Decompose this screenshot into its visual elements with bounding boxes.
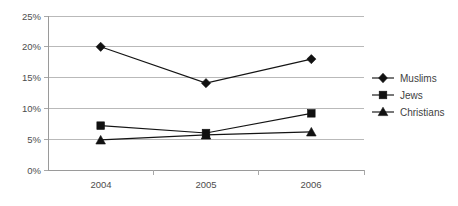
data-point-diamond <box>96 42 105 51</box>
legend-item-christians[interactable]: Christians <box>372 107 444 118</box>
triangle-icon <box>378 107 388 115</box>
y-axis-label: 15% <box>22 72 42 83</box>
y-axis-label: 10% <box>22 103 42 114</box>
x-axis-labels: 2004 2005 2006 <box>90 179 321 190</box>
legend-label: Muslims <box>400 73 437 84</box>
y-axis-label: 5% <box>27 134 41 145</box>
gridlines <box>48 16 364 170</box>
legend-item-jews[interactable]: Jews <box>372 90 423 101</box>
data-point-square <box>97 122 105 130</box>
data-point-square <box>308 110 316 118</box>
square-icon <box>379 91 387 99</box>
diamond-icon <box>379 73 388 83</box>
legend-label: Jews <box>400 90 423 101</box>
axes <box>44 16 364 175</box>
legend-label: Christians <box>400 107 444 118</box>
x-axis-label: 2004 <box>90 179 111 190</box>
series-group <box>96 42 316 144</box>
legend-item-muslims[interactable]: Muslims <box>372 73 437 84</box>
line-chart: 25% 20% 15% 10% 5% 0% 2004 2005 2006 Mus… <box>0 0 458 206</box>
series-muslims <box>96 42 316 88</box>
chart-svg: 25% 20% 15% 10% 5% 0% 2004 2005 2006 Mus… <box>0 0 458 206</box>
data-point-diamond <box>201 79 210 88</box>
x-axis-label: 2006 <box>300 179 321 190</box>
y-axis-labels: 25% 20% 15% 10% 5% 0% <box>22 11 42 176</box>
data-point-diamond <box>307 55 316 64</box>
y-axis-label: 0% <box>27 165 41 176</box>
y-axis-label: 25% <box>22 11 42 22</box>
legend: Muslims Jews Christians <box>372 73 444 118</box>
x-axis-label: 2005 <box>195 179 216 190</box>
y-axis-label: 20% <box>22 41 42 52</box>
series-christians <box>96 127 316 144</box>
